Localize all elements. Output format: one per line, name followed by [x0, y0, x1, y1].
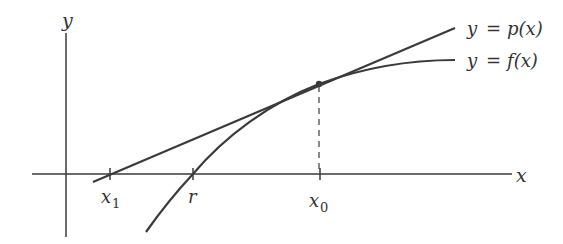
svg-text:y: y: [466, 50, 478, 71]
tick-label-r: r: [188, 186, 198, 207]
svg-text:1: 1: [112, 196, 120, 211]
y-axis-label: y: [61, 9, 73, 31]
svg-text:=: =: [486, 18, 501, 39]
x-axis-label: x: [516, 164, 527, 186]
newton-method-diagram: y x y = p(x) y = f(x) x 1 r x 0: [0, 0, 563, 244]
tangent-label: y = p(x): [466, 18, 543, 39]
svg-text:0: 0: [320, 200, 328, 215]
tick-label-x0: x 0: [309, 190, 328, 215]
svg-text:x: x: [309, 190, 319, 211]
svg-text:x: x: [101, 186, 111, 207]
svg-text:r: r: [188, 186, 198, 207]
svg-text:y: y: [466, 18, 478, 39]
svg-text:=: =: [486, 50, 501, 71]
tick-label-x1: x 1: [101, 186, 120, 211]
tangent-point: [316, 81, 322, 87]
function-label: y = f(x): [466, 50, 538, 71]
svg-text:f(x): f(x): [505, 50, 538, 71]
svg-text:p(x): p(x): [507, 18, 543, 39]
